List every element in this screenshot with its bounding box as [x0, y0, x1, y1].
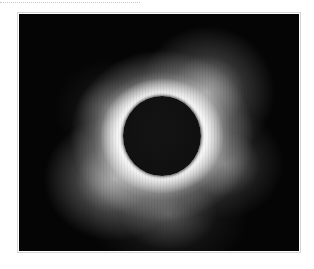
dotted-divider: [0, 2, 140, 3]
eclipse-photo: Total solar eclipse: dark lunar disc sur…: [19, 14, 299, 251]
photo-frame: Total solar eclipse: dark lunar disc sur…: [17, 12, 301, 253]
moon-disc: [123, 96, 201, 176]
